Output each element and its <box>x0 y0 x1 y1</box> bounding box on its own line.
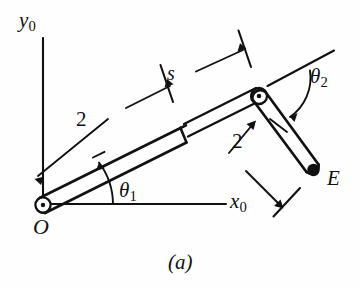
y0-subscript: 0 <box>29 18 36 34</box>
theta1-angle-indicator <box>93 152 113 204</box>
revolute-joint-icon-origin <box>35 197 50 212</box>
link-1-body <box>36 88 258 219</box>
end-point-icon <box>307 164 319 176</box>
mechanism-drawing <box>0 0 359 288</box>
endpoint-label: E <box>327 168 340 189</box>
theta1-extension-tick <box>93 152 105 158</box>
link1-outer-tube <box>43 146 189 219</box>
dim-link1-leader-right <box>126 86 170 108</box>
link2-length-label: 2 <box>232 131 243 152</box>
dim-link2-leader-lower <box>246 171 280 205</box>
dim-s-leader <box>196 50 243 72</box>
elbow-joint-pin <box>257 94 262 99</box>
x0-subscript: 0 <box>240 199 247 215</box>
prismatic-collar-step-upper <box>181 125 187 128</box>
link1-length-label: 2 <box>76 109 87 130</box>
link1-inner-rod-upper <box>184 88 256 124</box>
y0-axis-label: y0 <box>19 10 36 31</box>
x0-axis-label: x0 <box>230 191 247 212</box>
prismatic-collar-cap <box>181 128 187 143</box>
origin-label: O <box>33 216 49 238</box>
figure-caption: (a) <box>168 252 193 273</box>
theta2-angle-indicator <box>270 71 311 133</box>
slide-variable-label: s <box>167 63 175 83</box>
theta2-subscript: 2 <box>321 74 328 90</box>
mechanism-figure: y0 x0 O E s 2 2 θ1 θ2 (a) <box>0 0 359 288</box>
dim-link2-arrowhead-upper <box>247 121 257 131</box>
theta1-label: θ1 <box>119 180 137 201</box>
theta1-subscript: 1 <box>130 188 137 204</box>
theta2-arc <box>290 71 311 118</box>
theta2-label: θ2 <box>310 66 328 87</box>
origin-joint-pin <box>41 203 45 207</box>
dimension-slide-s <box>196 31 251 72</box>
